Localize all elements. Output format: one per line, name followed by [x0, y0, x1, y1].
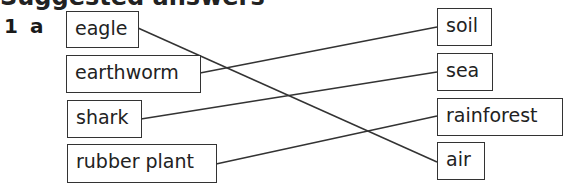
left-item-eagle: eagle	[66, 11, 139, 48]
right-item-sea: sea	[437, 53, 493, 91]
left-item-earthworm: earthworm	[66, 55, 201, 93]
left-item-shark: shark	[67, 100, 142, 138]
match-line-earthworm-soil	[200, 27, 437, 73]
right-item-rainforest: rainforest	[437, 98, 563, 136]
left-item-rubber-plant: rubber plant	[67, 144, 217, 183]
match-line-rubber-plant-rainforest	[216, 116, 437, 164]
right-item-air: air	[437, 142, 485, 180]
right-item-soil: soil	[437, 8, 492, 46]
